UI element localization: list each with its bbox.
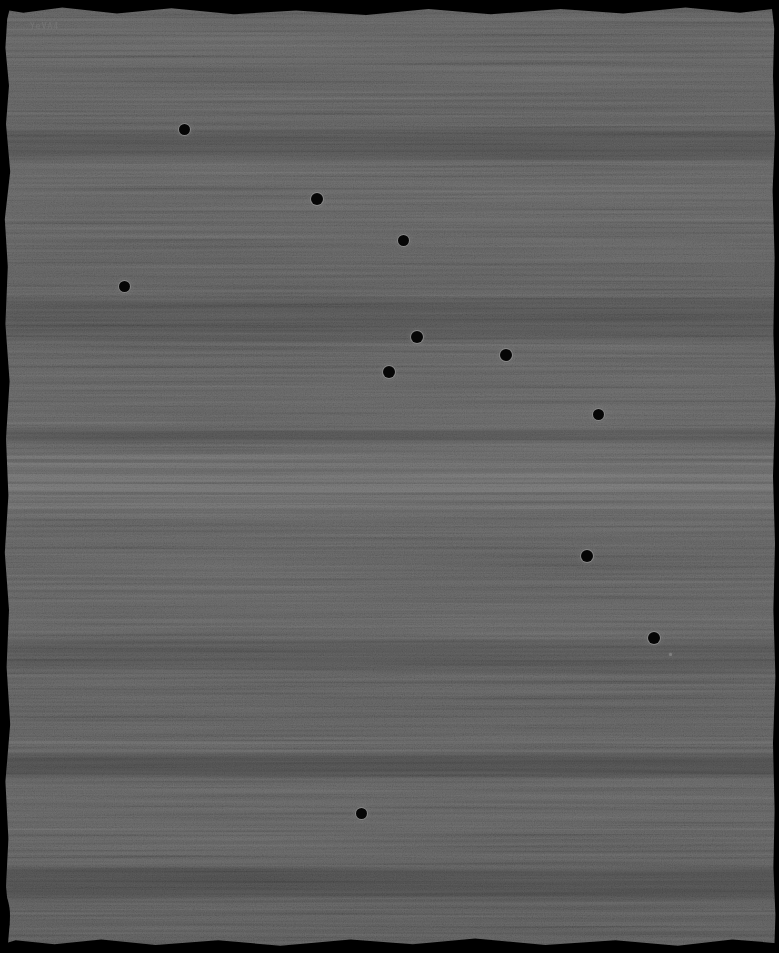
light-scan-band xyxy=(0,235,779,237)
frame-label: YeVA4 xyxy=(30,22,59,31)
dark-scan-band xyxy=(0,640,779,670)
dark-scan-band xyxy=(0,868,779,898)
light-scan-band xyxy=(0,463,779,468)
light-scan-band xyxy=(0,18,779,21)
dark-scan-band xyxy=(0,755,779,777)
light-scan-band xyxy=(0,922,779,924)
punch-hole xyxy=(356,808,367,819)
punch-hole xyxy=(119,281,130,292)
scan-streak-texture xyxy=(0,0,779,953)
film-edge-bottom xyxy=(0,937,779,953)
dark-scan-band xyxy=(0,300,779,340)
punch-hole xyxy=(581,550,593,562)
light-scan-band xyxy=(0,440,779,442)
film-edge-blob xyxy=(0,893,10,939)
light-scan-band xyxy=(0,58,779,60)
light-scan-band xyxy=(0,495,779,500)
punch-hole xyxy=(383,366,395,378)
film-scan-frame: YeVA4 xyxy=(0,0,779,953)
light-scan-band xyxy=(0,585,779,587)
light-scan-band xyxy=(0,828,779,830)
light-scan-band xyxy=(0,455,779,459)
light-scan-band xyxy=(0,98,779,100)
light-scan-band xyxy=(0,474,779,482)
light-scan-band xyxy=(0,333,779,335)
punch-hole xyxy=(398,235,409,246)
punch-hole xyxy=(500,349,512,361)
light-scan-band xyxy=(0,162,779,165)
punch-hole xyxy=(179,124,190,135)
light-scan-band xyxy=(0,484,779,492)
punch-hole xyxy=(648,632,660,644)
film-edge-left xyxy=(0,0,12,953)
film-edge-top xyxy=(0,0,779,15)
light-scan-band xyxy=(0,514,779,517)
film-grain-texture xyxy=(0,0,779,953)
light-scan-band xyxy=(0,503,779,509)
punch-hole xyxy=(593,409,604,420)
light-scan-band xyxy=(0,741,779,744)
film-edge-right xyxy=(771,0,779,953)
punch-hole xyxy=(411,331,423,343)
dust-speck xyxy=(669,653,672,656)
punch-hole xyxy=(311,193,323,205)
dark-scan-band xyxy=(0,130,779,160)
dark-scan-band xyxy=(0,430,779,442)
